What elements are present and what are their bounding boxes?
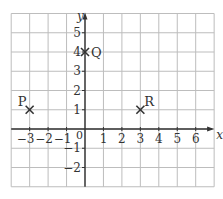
point-p: P	[18, 94, 34, 114]
point-label: R	[144, 94, 155, 109]
x-tick-label: 3	[137, 132, 145, 146]
y-tick-label: 5	[73, 26, 81, 40]
point-label: Q	[91, 45, 102, 60]
y-tick-label: 2	[73, 84, 81, 98]
tick-labels: −3−2−112345654321−1−20	[17, 26, 200, 175]
plotted-points: PQR	[18, 45, 156, 114]
coordinate-grid: xy −3−2−112345654321−1−20 PQR	[0, 0, 223, 199]
x-axis-arrow-icon	[207, 127, 214, 132]
x-tick-label: 6	[192, 132, 200, 146]
point-q: Q	[81, 45, 102, 60]
x-tick-label: −2	[35, 132, 53, 146]
axes: xy	[11, 9, 223, 187]
x-tick-label: −3	[17, 132, 35, 146]
x-tick-label: 5	[173, 132, 181, 146]
x-axis-label: x	[216, 128, 223, 142]
y-axis-label: y	[76, 9, 84, 23]
point-r: R	[136, 94, 155, 114]
y-tick-label: 1	[73, 103, 81, 117]
y-tick-label: 4	[73, 45, 81, 59]
y-tick-label: 3	[73, 64, 81, 78]
grid-lines	[11, 14, 214, 187]
y-tick-label: −1	[63, 141, 81, 155]
point-label: P	[18, 94, 27, 109]
origin-label: 0	[76, 129, 83, 142]
x-tick-label: 4	[155, 132, 163, 146]
y-tick-label: −2	[63, 161, 81, 175]
x-tick-label: 1	[100, 132, 108, 146]
x-tick-label: 2	[118, 132, 126, 146]
